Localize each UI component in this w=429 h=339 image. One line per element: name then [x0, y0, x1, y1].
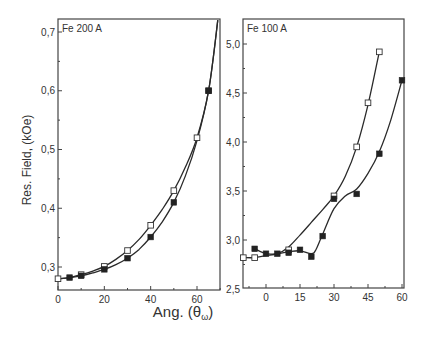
- filled-square-marker: [399, 77, 405, 83]
- open-square-marker: [354, 144, 360, 150]
- y-tick-label: 0,4: [41, 203, 55, 214]
- open-square-marker: [377, 49, 383, 55]
- filled-square-marker: [102, 267, 108, 273]
- series-curve: [255, 80, 402, 254]
- open-square-marker: [365, 100, 371, 106]
- filled-square-marker: [354, 191, 360, 197]
- x-tick-label: 60: [396, 292, 408, 303]
- open-square-marker: [148, 222, 154, 228]
- x-axis-title-prefix: Ang. (: [153, 303, 193, 320]
- x-axis-title-suffix: ): [208, 303, 213, 320]
- x-tick-label: 0: [55, 294, 61, 305]
- y-tick-label: 4,0: [226, 137, 240, 148]
- x-axis-title: Ang. (θω): [153, 303, 213, 322]
- filled-square-marker: [286, 250, 292, 256]
- filled-square-marker: [67, 275, 73, 281]
- filled-square-marker: [78, 273, 84, 279]
- panel-title: Fe 100 A: [247, 23, 287, 34]
- x-tick-label: 20: [99, 294, 111, 305]
- open-square-marker: [55, 276, 61, 282]
- filled-square-marker: [275, 251, 281, 257]
- y-tick-label: 4,5: [226, 88, 240, 99]
- open-square-marker: [252, 255, 258, 261]
- y-tick-label: 3,5: [226, 186, 240, 197]
- filled-square-marker: [331, 196, 337, 202]
- open-square-marker: [241, 255, 247, 261]
- y-tick-label: 0,6: [41, 85, 55, 96]
- filled-square-marker: [148, 234, 154, 240]
- y-tick-label: 5,0: [226, 39, 240, 50]
- panel-fe-200a: 02040600,30,40,50,60,7Fe 200 A: [41, 19, 220, 305]
- y-tick-label: 3,0: [226, 235, 240, 246]
- x-tick-label: 15: [294, 292, 306, 303]
- open-square-marker: [125, 248, 131, 254]
- y-tick-label: 0,3: [41, 262, 55, 273]
- panel-fe-100a: 0153045602,53,03,54,04,55,0Fe 100 A: [226, 19, 408, 303]
- filled-square-marker: [320, 233, 326, 239]
- figure: 02040600,30,40,50,60,7Fe 200 A 015304560…: [0, 0, 429, 339]
- filled-square-marker: [206, 88, 212, 94]
- filled-square-marker: [125, 255, 131, 261]
- y-axis-title: Res. Field, (kOe): [20, 115, 34, 206]
- chart-canvas: 02040600,30,40,50,60,7Fe 200 A 015304560…: [0, 0, 429, 339]
- open-square-marker: [171, 188, 177, 194]
- x-tick-label: 0: [263, 292, 269, 303]
- filled-square-marker: [377, 151, 383, 157]
- open-square-marker: [194, 135, 200, 141]
- filled-square-marker: [309, 254, 315, 260]
- series-curve: [243, 52, 379, 258]
- x-axis-title-subscript: ω: [201, 312, 208, 322]
- x-tick-label: 30: [328, 292, 340, 303]
- filled-square-marker: [297, 247, 303, 253]
- x-axis-title-theta: θ: [193, 303, 201, 320]
- panel-title: Fe 200 A: [62, 23, 102, 34]
- filled-square-marker: [252, 246, 258, 252]
- y-tick-label: 0,5: [41, 144, 55, 155]
- y-tick-label: 2,5: [226, 284, 240, 295]
- filled-square-marker: [263, 251, 269, 257]
- y-tick-label: 0,7: [41, 27, 55, 38]
- x-tick-label: 45: [362, 292, 374, 303]
- filled-square-marker: [171, 200, 177, 206]
